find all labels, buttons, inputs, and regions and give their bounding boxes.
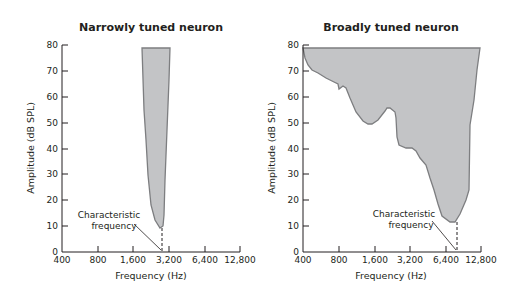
svg-text:3,200: 3,200: [156, 255, 182, 265]
cf-label-line1: Characteristic: [78, 210, 141, 220]
svg-text:70: 70: [288, 66, 300, 76]
chart-broad: Broadly tuned neuron 80 70 60 50 40 30 2…: [266, 21, 497, 281]
y-axis-label: Amplitude (dB SPL): [266, 102, 277, 194]
svg-text:10: 10: [47, 221, 59, 231]
svg-text:80: 80: [47, 40, 59, 50]
figure: Narrowly tuned neuron 80 70 60 50 40 30 …: [0, 0, 514, 308]
chart-narrow: Narrowly tuned neuron 80 70 60 50 40 30 …: [25, 21, 256, 281]
svg-text:30: 30: [288, 169, 300, 179]
x-ticks: [339, 246, 481, 252]
svg-text:12,800: 12,800: [224, 255, 256, 265]
x-tick-labels: 400 800 1,600 3,200 6,400 12,800: [294, 255, 497, 265]
x-tick-labels: 400 800 1,600 3,200 6,400 12,800: [53, 255, 256, 265]
y-axis-label: Amplitude (dB SPL): [25, 102, 36, 194]
svg-text:60: 60: [47, 92, 59, 102]
svg-text:6,400: 6,400: [192, 255, 218, 265]
svg-text:20: 20: [47, 195, 59, 205]
cf-leader-line: [134, 224, 161, 250]
cf-label-line1: Characteristic: [373, 209, 436, 219]
svg-text:80: 80: [288, 40, 300, 50]
svg-text:800: 800: [330, 255, 347, 265]
y-ticks: [62, 45, 68, 226]
svg-text:50: 50: [47, 118, 59, 128]
svg-text:70: 70: [47, 66, 59, 76]
svg-text:400: 400: [294, 255, 311, 265]
chart-title: Narrowly tuned neuron: [79, 21, 223, 34]
svg-text:20: 20: [288, 195, 300, 205]
svg-text:60: 60: [288, 92, 300, 102]
y-ticks: [303, 45, 309, 226]
x-axis-label: Frequency (Hz): [115, 270, 187, 281]
svg-text:40: 40: [288, 144, 300, 154]
svg-text:3,200: 3,200: [397, 255, 423, 265]
x-ticks: [98, 246, 240, 252]
x-axis-label: Frequency (Hz): [355, 270, 427, 281]
y-tick-labels: 80 70 60 50 40 30 20 10 0: [47, 40, 59, 257]
svg-text:40: 40: [47, 144, 59, 154]
svg-text:12,800: 12,800: [465, 255, 497, 265]
cf-leader-line: [432, 221, 456, 250]
y-tick-labels: 80 70 60 50 40 30 20 10 0: [288, 40, 300, 257]
svg-text:1,600: 1,600: [120, 255, 146, 265]
svg-text:30: 30: [47, 169, 59, 179]
svg-text:400: 400: [53, 255, 70, 265]
cf-label-line2: frequency: [91, 221, 137, 231]
tuning-area: [303, 48, 480, 222]
tuning-area: [142, 48, 170, 228]
chart-title: Broadly tuned neuron: [323, 21, 458, 34]
svg-text:1,600: 1,600: [362, 255, 388, 265]
cf-label-line2: frequency: [388, 220, 434, 230]
svg-text:10: 10: [288, 221, 300, 231]
svg-text:6,400: 6,400: [433, 255, 459, 265]
svg-text:50: 50: [288, 118, 300, 128]
svg-text:800: 800: [89, 255, 106, 265]
